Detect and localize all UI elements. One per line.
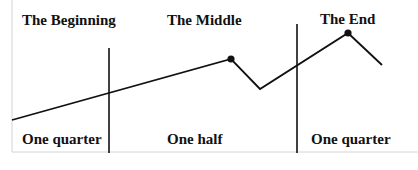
label-one-quarter-right: One quarter <box>311 132 391 147</box>
label-the-end: The End <box>320 12 375 27</box>
label-the-middle: The Middle <box>167 13 242 28</box>
label-one-half: One half <box>167 132 222 147</box>
tension-line <box>12 33 382 120</box>
climax-marker <box>344 29 351 36</box>
story-structure-diagram: The Beginning The Middle The End One qua… <box>0 0 418 170</box>
midpoint-marker <box>227 55 234 62</box>
label-the-beginning: The Beginning <box>22 13 116 28</box>
label-one-quarter-left: One quarter <box>22 132 102 147</box>
